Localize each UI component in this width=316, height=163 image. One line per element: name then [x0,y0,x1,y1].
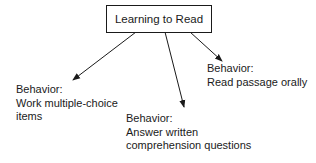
behavior-heading: Behavior: [16,83,118,97]
behavior-heading: Behavior: [126,112,251,126]
behavior-line: Read passage orally [207,76,307,90]
behavior-line: items [16,110,118,124]
behavior-line: Answer written [126,126,251,140]
behavior-line: Work multiple-choice [16,97,118,111]
behavior-node-written-questions: Behavior: Answer written comprehension q… [126,112,251,153]
arrow-to-multiple-choice [73,32,136,80]
behavior-node-read-orally: Behavior: Read passage orally [207,62,307,89]
behavior-heading: Behavior: [207,62,307,76]
behavior-node-multiple-choice: Behavior: Work multiple-choice items [16,83,118,124]
root-node: Learning to Read [106,5,212,33]
arrow-to-written-questions [165,32,184,107]
arrow-to-read-orally [190,32,222,61]
behavior-line: comprehension questions [126,139,251,153]
root-label: Learning to Read [115,13,203,25]
